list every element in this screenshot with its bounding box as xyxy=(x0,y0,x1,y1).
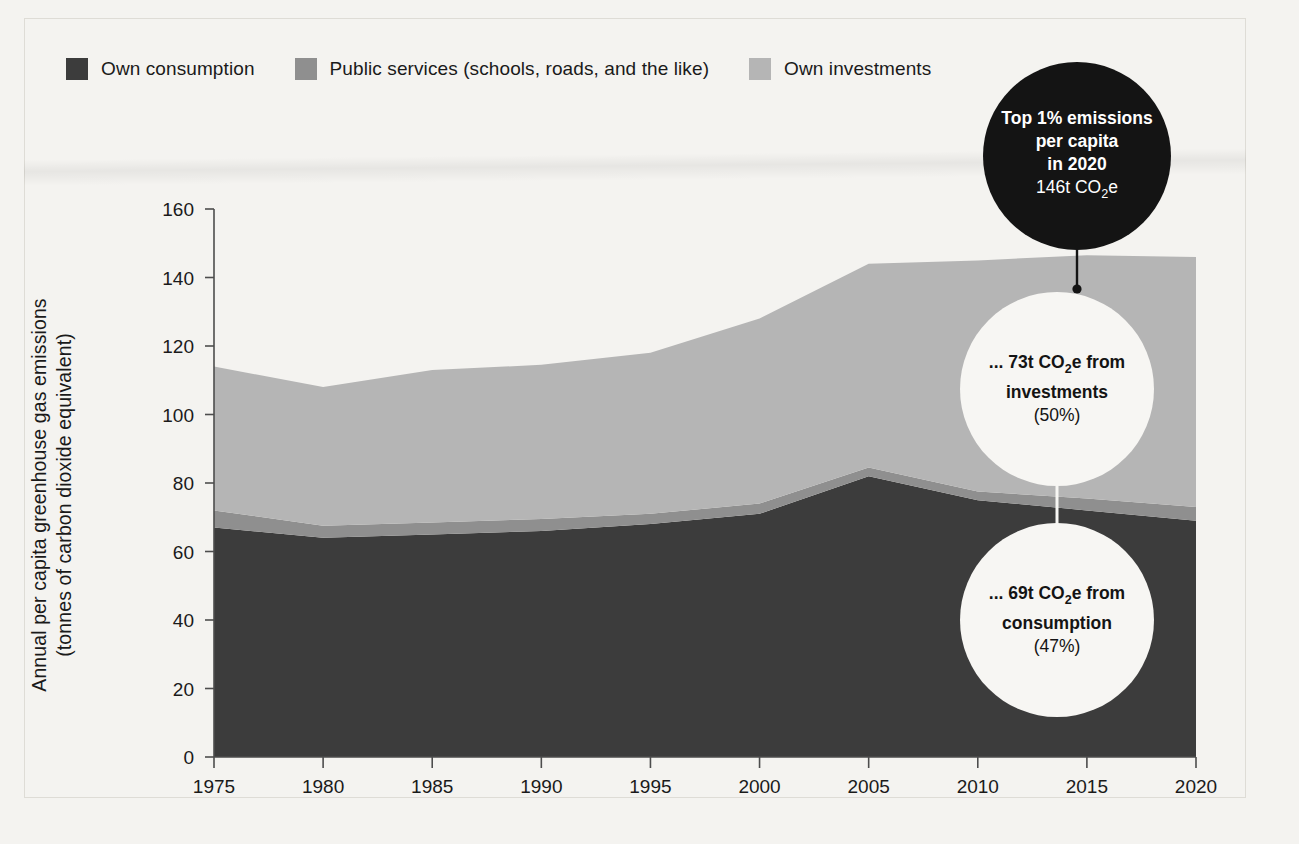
callout-consumption-line3: (47%) xyxy=(989,635,1125,658)
figure-root: Own consumptionPublic services (schools,… xyxy=(0,0,1299,844)
y-tick-label-80: 80 xyxy=(173,473,194,494)
y-tick-label-160: 160 xyxy=(162,199,194,220)
y-tick-label-60: 60 xyxy=(173,542,194,563)
x-tick-label-1980: 1980 xyxy=(302,776,344,797)
callout-top-1-percent: Top 1% emissions per capita in 2020 146t… xyxy=(983,62,1171,250)
x-tick-label-1985: 1985 xyxy=(411,776,453,797)
x-tick-label-2015: 2015 xyxy=(1066,776,1108,797)
leader-dot-top xyxy=(1072,284,1081,293)
y-tick-label-40: 40 xyxy=(173,610,194,631)
callout-investments: ... 73t CO2e from investments (50%) xyxy=(960,292,1154,486)
y-tick-label-120: 120 xyxy=(162,336,194,357)
x-tick-label-1995: 1995 xyxy=(629,776,671,797)
x-tick-label-2020: 2020 xyxy=(1175,776,1217,797)
callout-investments-line3: (50%) xyxy=(989,404,1125,427)
y-tick-label-140: 140 xyxy=(162,268,194,289)
x-tick-label-1975: 1975 xyxy=(193,776,235,797)
y-tick-label-20: 20 xyxy=(173,679,194,700)
callout-top-line1: Top 1% emissions xyxy=(1001,107,1152,130)
callout-investments-line1: ... 73t CO2e from xyxy=(989,351,1125,381)
x-tick-label-2005: 2005 xyxy=(848,776,890,797)
callout-top-line2: per capita xyxy=(1001,130,1152,153)
callout-top-line4: 146t CO2e xyxy=(1001,176,1152,206)
callout-consumption-line2: consumption xyxy=(989,612,1125,635)
callout-top-line3: in 2020 xyxy=(1001,153,1152,176)
callout-investments-line2: investments xyxy=(989,381,1125,404)
x-tick-label-1990: 1990 xyxy=(520,776,562,797)
x-tick-label-2010: 2010 xyxy=(957,776,999,797)
callout-consumption: ... 69t CO2e from consumption (47%) xyxy=(960,523,1154,717)
y-tick-label-100: 100 xyxy=(162,405,194,426)
x-tick-label-2000: 2000 xyxy=(738,776,780,797)
callout-consumption-line1: ... 69t CO2e from xyxy=(989,582,1125,612)
y-tick-label-0: 0 xyxy=(183,747,194,768)
